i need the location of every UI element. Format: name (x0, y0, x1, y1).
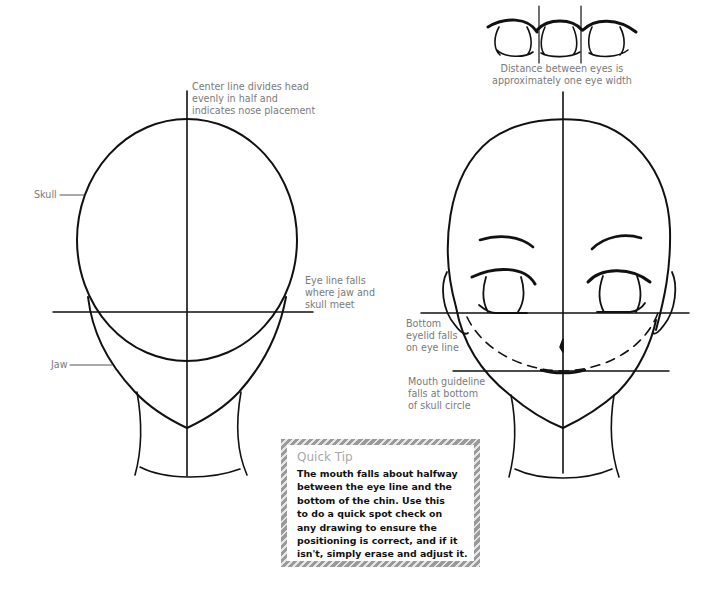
right-head-construction (421, 92, 689, 478)
neck-right (238, 392, 247, 475)
right-ear (653, 272, 675, 334)
right-eye (597, 276, 645, 312)
left-eye (479, 277, 527, 313)
right-eyebrow (592, 236, 641, 249)
quick-tip-body: The mouth falls about halfway between th… (297, 467, 468, 561)
right-neck-left (509, 395, 515, 477)
quick-tip-box: Quick Tip The mouth falls about halfway … (281, 439, 480, 567)
left-head-construction (53, 91, 313, 477)
left-eyebrow (480, 237, 533, 247)
right-skull-outline (448, 119, 670, 330)
left-upper-lid (472, 269, 535, 284)
right-face-outline (456, 307, 656, 428)
jaw-label: Jaw (51, 359, 68, 371)
eye-spacing-diagram (488, 6, 636, 63)
quick-tip-title: Quick Tip (297, 450, 468, 464)
eye-line-label: Eye line falls where jaw and skull meet (305, 275, 375, 311)
nose (560, 339, 563, 352)
neck-base (140, 467, 240, 477)
center-line-label: Center line divides head evenly in half … (192, 81, 315, 117)
skull-label: Skull (34, 189, 57, 201)
eye-distance-label: Distance between eyes is approximately o… (492, 63, 632, 87)
right-upper-lid (588, 271, 650, 282)
mouth-guideline-label: Mouth guideline falls at bottom of skull… (408, 376, 485, 412)
neck-left (135, 392, 141, 475)
right-neck-right (611, 395, 619, 477)
bottom-eyelid-label: Bottom eyelid falls on eye line (406, 318, 459, 354)
